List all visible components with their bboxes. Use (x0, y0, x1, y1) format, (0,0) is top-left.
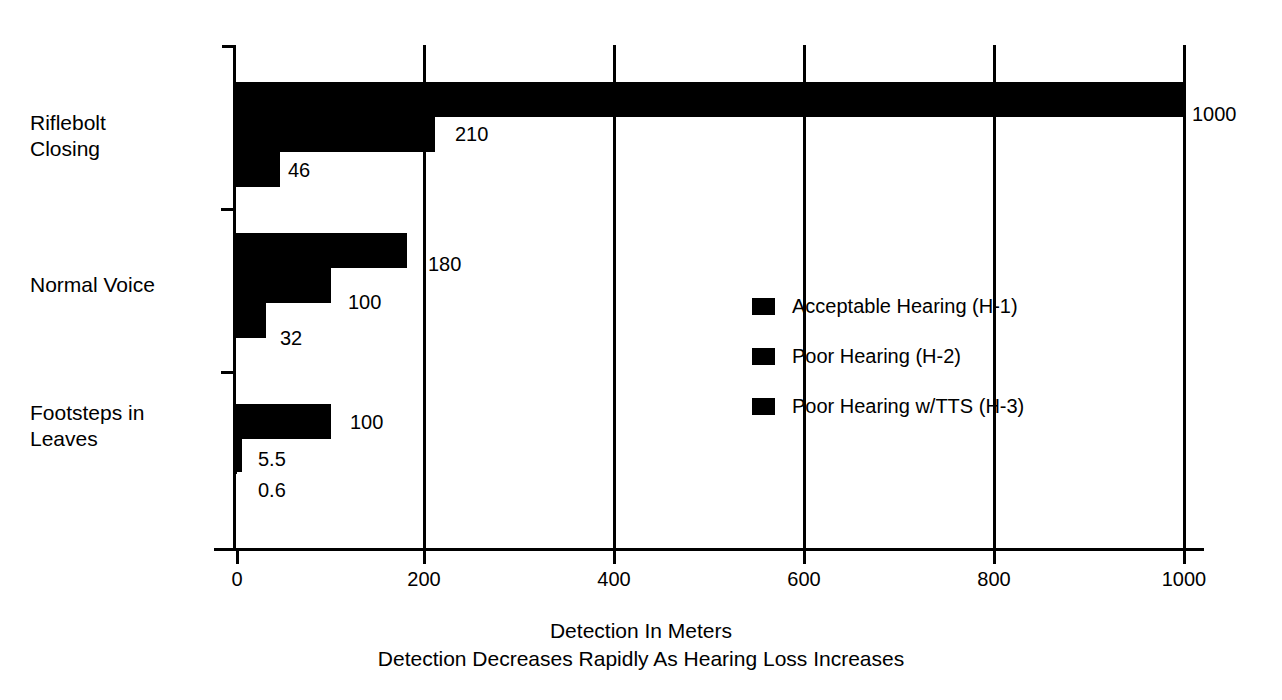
bar-value-footsteps-in-leaves-h1: 100 (350, 412, 383, 432)
bar-riflebolt-closing-h2 (236, 117, 435, 152)
chart-page: Riflebolt Closing Normal Voice Footsteps… (0, 0, 1282, 700)
x-axis-tick-800 (993, 548, 996, 564)
x-axis-tick-0 (236, 548, 239, 564)
chart-note: Detection Decreases Rapidly As Hearing L… (0, 645, 1282, 672)
x-axis-label-400: 400 (569, 567, 659, 591)
legend-item-poor-hearing-h2: Poor Hearing (H-2) (752, 345, 961, 367)
bar-value-normal-voice-h1: 180 (428, 254, 461, 274)
bar-riflebolt-closing-h3 (236, 152, 280, 187)
category-label-normal-voice: Normal Voice (30, 272, 155, 298)
legend-swatch-icon-h3 (752, 398, 775, 415)
gridline-1000 (1183, 45, 1186, 548)
legend-swatch-icon-h2 (752, 348, 775, 365)
category-label-riflebolt-closing: Riflebolt Closing (30, 110, 106, 162)
x-axis-tick-1000 (1183, 548, 1186, 564)
bar-footsteps-in-leaves-h2 (236, 439, 242, 472)
x-axis-line (214, 548, 1204, 551)
x-axis-title: Detection In Meters (0, 617, 1282, 644)
bar-riflebolt-closing-h1 (236, 82, 1185, 117)
category-label-footsteps-in-leaves: Footsteps in Leaves (30, 400, 144, 452)
bar-value-riflebolt-closing-h3: 46 (288, 160, 310, 180)
bar-normal-voice-h3 (236, 303, 266, 338)
legend-label-h2: Poor Hearing (H-2) (792, 345, 961, 367)
bar-footsteps-in-leaves-h3 (236, 472, 237, 474)
bar-value-footsteps-in-leaves-h2: 5.5 (258, 449, 286, 469)
x-axis-tick-600 (803, 548, 806, 564)
gridline-400 (613, 45, 616, 548)
legend-swatch-icon-h1 (752, 298, 775, 315)
bar-value-normal-voice-h2: 100 (348, 292, 381, 312)
bar-value-riflebolt-closing-h2: 210 (455, 124, 488, 144)
legend-item-poor-hearing-wtts-h3: Poor Hearing w/TTS (H-3) (752, 395, 1024, 417)
x-axis-label-200: 200 (379, 567, 469, 591)
x-axis-tick-200 (423, 548, 426, 564)
bar-value-normal-voice-h3: 32 (280, 328, 302, 348)
bar-value-riflebolt-closing-h1: 1000 (1192, 104, 1237, 124)
legend-label-h1: Acceptable Hearing (H-1) (792, 295, 1018, 317)
bar-footsteps-in-leaves-h1 (236, 404, 331, 439)
y-axis-group-tick-2 (221, 371, 236, 374)
y-axis-group-tick-1 (221, 208, 236, 211)
x-axis-label-600: 600 (759, 567, 849, 591)
x-axis-label-1000: 1000 (1139, 567, 1229, 591)
x-axis-label-800: 800 (949, 567, 1039, 591)
bar-normal-voice-h1 (236, 233, 407, 268)
legend-item-acceptable-hearing-h1: Acceptable Hearing (H-1) (752, 295, 1018, 317)
bar-value-footsteps-in-leaves-h3: 0.6 (258, 480, 286, 500)
bar-normal-voice-h2 (236, 268, 331, 303)
legend-label-h3: Poor Hearing w/TTS (H-3) (792, 395, 1024, 417)
x-axis-label-0: 0 (192, 567, 282, 591)
x-axis-tick-400 (613, 548, 616, 564)
